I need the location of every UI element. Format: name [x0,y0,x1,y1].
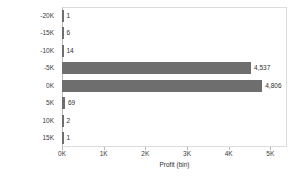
y-axis-tick: 10K [0,112,58,130]
x-axis-tick-label: 2K [141,151,149,158]
y-axis-tick-label: 15K [42,135,54,142]
y-axis-tick-label: 5K [46,100,54,107]
y-axis-tick-label: -5K [44,65,54,72]
bar[interactable] [62,62,251,74]
y-axis-tick: 15K [0,130,58,148]
y-axis-tick-label: 0K [46,83,54,90]
x-axis-tick-label: 5K [266,151,274,158]
x-axis-tick-label: 0K [58,151,66,158]
y-axis-tick: -20K [0,7,58,25]
bar-chart: -20K -15K -10K -5K 0K 5K 10K 15K 1 [0,0,296,184]
x-axis-title: Profit (bin) [62,162,287,169]
y-axis-tick: -15K [0,25,58,43]
bar-value-label: 1 [67,135,71,142]
bar-row: 1 [62,130,287,148]
bar-value-label: 4,537 [254,65,270,72]
y-axis-tick: -10K [0,42,58,60]
y-axis-tick: 0K [0,77,58,95]
y-axis-tick-label: -15K [40,30,54,37]
bar[interactable] [62,132,64,144]
bar-row: 69 [62,95,287,113]
bar[interactable] [62,115,64,127]
x-axis-tick-label: 3K [183,151,191,158]
bar-value-label: 69 [68,100,75,107]
bar-value-label: 2 [67,118,71,125]
x-axis: 0K1K2K3K4K5K [62,147,287,159]
bar-row: 6 [62,25,287,43]
bar-series: 1 6 14 4,537 4,806 69 2 1 [62,7,287,147]
bar[interactable] [62,45,64,57]
bar[interactable] [62,27,64,39]
y-axis-tick-label: -10K [40,48,54,55]
y-axis-tick: -5K [0,60,58,78]
bar[interactable] [62,80,262,92]
bar-row: 4,806 [62,77,287,95]
y-axis-tick: 5K [0,95,58,113]
bar[interactable] [62,97,65,109]
bar-value-label: 4,806 [265,83,281,90]
x-axis-tick-label: 4K [225,151,233,158]
bar-row: 1 [62,7,287,25]
bar-value-label: 6 [67,30,71,37]
bar-row: 14 [62,42,287,60]
bar-row: 4,537 [62,60,287,78]
y-axis-tick-label: -20K [40,13,54,20]
bar-value-label: 1 [67,13,71,20]
y-axis-tick-labels: -20K -15K -10K -5K 0K 5K 10K 15K [0,7,58,147]
bar[interactable] [62,10,64,22]
bar-value-label: 14 [67,48,74,55]
bar-row: 2 [62,112,287,130]
y-axis-tick-label: 10K [42,118,54,125]
x-axis-tick-label: 1K [100,151,108,158]
